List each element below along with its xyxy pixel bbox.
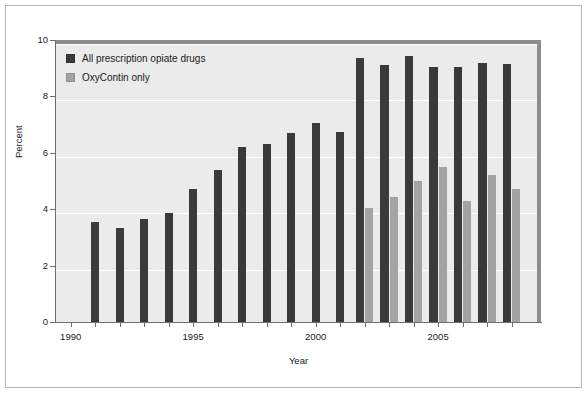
- bar-all-prescription: [380, 65, 388, 322]
- legend-swatch-light: [66, 73, 75, 82]
- bar-all-prescription: [91, 222, 99, 322]
- x-tick-mark: [242, 323, 243, 327]
- y-tick-label: 6: [20, 148, 48, 158]
- y-tick-label: 2: [20, 261, 48, 271]
- x-tick-mark: [193, 323, 194, 327]
- x-tick-label: 2000: [296, 331, 336, 342]
- bar-all-prescription: [287, 133, 295, 322]
- x-tick-mark: [389, 323, 390, 327]
- bar-all-prescription: [478, 63, 486, 322]
- chart-figure: 0246810 1990199520002005 Percent Year Al…: [0, 0, 587, 393]
- x-tick-mark: [120, 323, 121, 327]
- bar-all-prescription: [454, 67, 462, 322]
- y-tick-mark: [50, 153, 55, 154]
- legend-swatch-dark: [66, 54, 75, 63]
- x-tick-mark: [414, 323, 415, 327]
- x-tick-label: 1990: [51, 331, 91, 342]
- x-axis-label: Year: [56, 355, 541, 366]
- bar-oxycontin: [488, 175, 496, 322]
- x-tick-mark: [267, 323, 268, 327]
- bar-all-prescription: [312, 123, 320, 322]
- bar-oxycontin: [390, 197, 398, 322]
- x-tick-label: 1995: [173, 331, 213, 342]
- legend-label: OxyContin only: [82, 72, 150, 83]
- chart-legend: All prescription opiate drugs OxyContin …: [66, 50, 205, 88]
- bar-all-prescription: [356, 58, 364, 322]
- bar-all-prescription: [214, 170, 222, 322]
- bar-all-prescription: [405, 56, 413, 322]
- x-tick-mark: [169, 323, 170, 327]
- x-tick-mark: [95, 323, 96, 327]
- y-tick-mark: [50, 266, 55, 267]
- x-tick-mark: [144, 323, 145, 327]
- x-tick-label: 2005: [418, 331, 458, 342]
- y-tick-mark: [50, 209, 55, 210]
- bar-all-prescription: [189, 189, 197, 322]
- x-tick-mark: [438, 323, 439, 327]
- legend-item-oxycontin-only: OxyContin only: [66, 69, 205, 86]
- x-axis-line: [55, 322, 542, 323]
- bar-all-prescription: [336, 132, 344, 322]
- x-tick-mark: [512, 323, 513, 327]
- x-tick-mark: [316, 323, 317, 327]
- y-tick-mark: [50, 96, 55, 97]
- x-tick-mark: [71, 323, 72, 327]
- bar-oxycontin: [365, 208, 373, 322]
- bar-oxycontin: [439, 167, 447, 322]
- legend-label: All prescription opiate drugs: [82, 53, 205, 64]
- x-tick-mark: [365, 323, 366, 327]
- y-tick-label: 4: [20, 204, 48, 214]
- gridline: [56, 100, 537, 101]
- bar-all-prescription: [140, 219, 148, 322]
- y-tick-mark: [50, 322, 55, 323]
- bar-all-prescription: [503, 64, 511, 322]
- y-tick-label: 10: [20, 35, 48, 45]
- legend-item-all-prescription-opiate-drugs: All prescription opiate drugs: [66, 50, 205, 67]
- y-tick-label: 8: [20, 91, 48, 101]
- bar-all-prescription: [429, 67, 437, 322]
- bar-oxycontin: [414, 181, 422, 322]
- y-tick-label: 0: [20, 317, 48, 327]
- bar-all-prescription: [263, 144, 271, 322]
- bar-oxycontin: [463, 201, 471, 322]
- bar-all-prescription: [116, 228, 124, 322]
- y-axis-line: [55, 40, 56, 323]
- bar-oxycontin: [512, 189, 520, 322]
- y-axis-label: Percent: [13, 125, 24, 158]
- x-tick-mark: [463, 323, 464, 327]
- x-tick-mark: [218, 323, 219, 327]
- x-tick-mark: [291, 323, 292, 327]
- bar-all-prescription: [238, 147, 246, 322]
- x-tick-mark: [340, 323, 341, 327]
- bar-all-prescription: [165, 213, 173, 322]
- x-tick-mark: [487, 323, 488, 327]
- y-tick-mark: [50, 40, 55, 41]
- gridline: [56, 157, 537, 158]
- gridline: [56, 44, 537, 45]
